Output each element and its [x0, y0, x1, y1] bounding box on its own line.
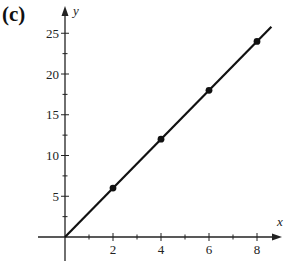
x-axis-arrow-icon: [272, 234, 282, 241]
data-point: [206, 87, 213, 94]
y-tick-label: 5: [53, 189, 60, 204]
data-point: [254, 38, 261, 45]
data-line: [65, 27, 271, 237]
y-tick-label: 20: [46, 67, 59, 82]
x-tick-label: 4: [158, 242, 165, 257]
x-tick-label: 2: [110, 242, 117, 257]
x-tick-label: 6: [206, 242, 213, 257]
y-tick-label: 25: [46, 26, 59, 41]
data-point: [110, 185, 117, 192]
line-chart: 2468510152025yx: [0, 0, 287, 261]
y-tick-label: 15: [46, 107, 59, 122]
y-axis-label: y: [71, 3, 79, 18]
data-point: [158, 136, 165, 143]
x-axis-label: x: [276, 214, 283, 229]
y-axis-arrow-icon: [62, 6, 69, 16]
x-tick-label: 8: [254, 242, 261, 257]
y-tick-label: 10: [46, 148, 59, 163]
